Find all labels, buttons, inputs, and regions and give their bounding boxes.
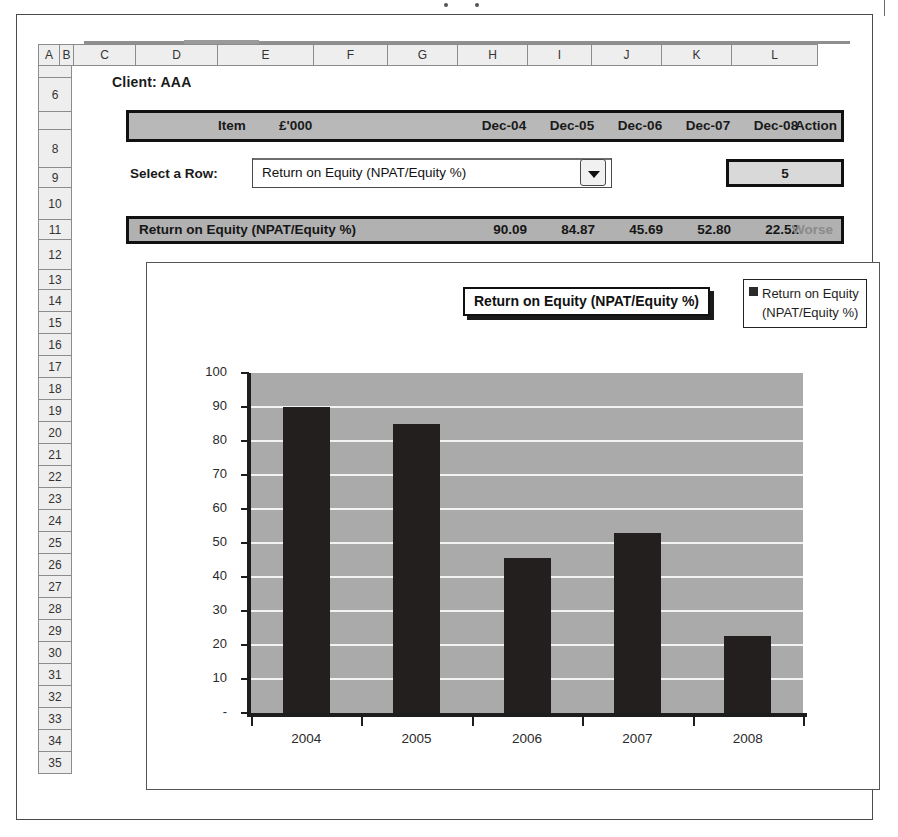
row-header-27[interactable]: 27	[38, 576, 72, 598]
row-header-20[interactable]: 20	[38, 422, 72, 444]
row-header-30[interactable]: 30	[38, 642, 72, 664]
gridline-60	[251, 508, 803, 510]
gridline-70	[251, 474, 803, 476]
page-edge-rule	[884, 0, 885, 16]
y-axis-line	[247, 373, 251, 715]
row-header-column: 6891011121314151617181920212223242526272…	[38, 66, 72, 774]
bar-2005	[393, 424, 440, 713]
sheet-content: Client: AAA Item£'000Dec-04Dec-05Dec-06D…	[72, 66, 852, 810]
column-header-c[interactable]: C	[74, 44, 136, 66]
y-tick-mark-10	[241, 678, 249, 680]
row-header-19[interactable]: 19	[38, 400, 72, 422]
row-header-18[interactable]: 18	[38, 378, 72, 400]
header-period-dec-05: Dec-05	[541, 113, 603, 139]
y-tick-mark-40	[241, 576, 249, 578]
y-tick-mark-60	[241, 508, 249, 510]
scan-speck	[444, 3, 448, 7]
y-tick-mark-30	[241, 610, 249, 612]
bar-2004	[283, 407, 330, 713]
column-header-d[interactable]: D	[136, 44, 218, 66]
row-header-8[interactable]: 8	[38, 130, 72, 168]
gridline-80	[251, 440, 803, 442]
legend-swatch-icon	[749, 287, 758, 296]
y-tick-label-70: 70	[187, 466, 227, 481]
row-header-22[interactable]: 22	[38, 466, 72, 488]
legend-label: Return on Equity(NPAT/Equity %)	[749, 286, 859, 320]
column-header-k[interactable]: K	[662, 44, 732, 66]
x-tick-label-2006: 2006	[487, 731, 567, 746]
row-header-16[interactable]: 16	[38, 334, 72, 356]
row-header-13[interactable]: 13	[38, 270, 72, 290]
gridline-90	[251, 406, 803, 408]
row-header-28[interactable]: 28	[38, 598, 72, 620]
bar-2006	[504, 558, 551, 713]
column-header-i[interactable]: I	[528, 44, 592, 66]
column-header-l[interactable]: L	[732, 44, 818, 66]
row-header-23[interactable]: 23	[38, 488, 72, 510]
row-header-32[interactable]: 32	[38, 686, 72, 708]
x-tick-mark-1	[361, 717, 363, 726]
x-tick-label-2005: 2005	[377, 731, 457, 746]
column-header-g[interactable]: G	[388, 44, 458, 66]
header-period-dec-07: Dec-07	[677, 113, 739, 139]
chart-legend: Return on Equity(NPAT/Equity %)	[743, 279, 867, 328]
x-tick-mark-3	[582, 717, 584, 726]
row-select-value[interactable]: Return on Equity (NPAT/Equity %)	[262, 165, 466, 180]
row-header-21[interactable]: 21	[38, 444, 72, 466]
y-tick-label-30: 30	[187, 602, 227, 617]
y-tick-label-60: 60	[187, 500, 227, 515]
y-tick-label-10: 10	[187, 670, 227, 685]
row-header-35[interactable]: 35	[38, 752, 72, 774]
column-header-e[interactable]: E	[218, 44, 314, 66]
x-tick-mark-0	[251, 717, 253, 726]
column-header-h[interactable]: H	[458, 44, 528, 66]
data-value-0: 90.09	[465, 219, 527, 241]
row-header-6[interactable]: 6	[38, 78, 72, 112]
column-header-b[interactable]: B	[60, 44, 74, 66]
bar-2007	[614, 533, 661, 713]
y-tick-label-20: 20	[187, 636, 227, 651]
row-header-24[interactable]: 24	[38, 510, 72, 532]
row-header-partial[interactable]	[38, 112, 72, 130]
column-header-j[interactable]: J	[592, 44, 662, 66]
selected-data-row: Return on Equity (NPAT/Equity %)90.0984.…	[126, 216, 844, 244]
column-header-f[interactable]: F	[314, 44, 388, 66]
row-header-14[interactable]: 14	[38, 290, 72, 312]
data-value-1: 84.87	[533, 219, 595, 241]
row-index-box: 5	[726, 159, 844, 187]
chart-container: 100908070605040302010-200420052006200720…	[146, 262, 880, 790]
row-header-partial[interactable]	[38, 66, 72, 78]
chart-plot-wrapper: 100908070605040302010-200420052006200720…	[147, 263, 881, 791]
y-tick-label-80: 80	[187, 432, 227, 447]
y-tick-mark-80	[241, 440, 249, 442]
row-header-25[interactable]: 25	[38, 532, 72, 554]
chart-title: Return on Equity (NPAT/Equity %)	[463, 287, 710, 316]
row-header-29[interactable]: 29	[38, 620, 72, 642]
x-tick-label-2008: 2008	[708, 731, 788, 746]
x-axis-line	[247, 713, 807, 717]
chart-plot-area	[251, 373, 803, 713]
y-tick-label-90: 90	[187, 398, 227, 413]
row-header-33[interactable]: 33	[38, 708, 72, 730]
header-item: Item	[197, 113, 267, 139]
row-header-9[interactable]: 9	[38, 168, 72, 188]
y-tick-mark-0	[241, 712, 249, 714]
row-header-17[interactable]: 17	[38, 356, 72, 378]
x-tick-mark-2	[472, 717, 474, 726]
select-a-row-label: Select a Row:	[130, 166, 218, 181]
y-tick-mark-20	[241, 644, 249, 646]
chevron-down-icon[interactable]	[588, 171, 600, 178]
row-header-31[interactable]: 31	[38, 664, 72, 686]
x-tick-label-2004: 2004	[266, 731, 346, 746]
row-header-34[interactable]: 34	[38, 730, 72, 752]
row-header-26[interactable]: 26	[38, 554, 72, 576]
row-header-10[interactable]: 10	[38, 188, 72, 220]
y-tick-label-0: -	[187, 704, 227, 719]
column-header-a[interactable]: A	[38, 44, 60, 66]
table-header-band: Item£'000Dec-04Dec-05Dec-06Dec-07Dec-08A…	[126, 110, 844, 142]
x-tick-mark-5	[803, 717, 805, 726]
row-header-11[interactable]: 11	[38, 220, 72, 240]
row-header-12[interactable]: 12	[38, 240, 72, 270]
data-value-3: 52.80	[669, 219, 731, 241]
row-header-15[interactable]: 15	[38, 312, 72, 334]
